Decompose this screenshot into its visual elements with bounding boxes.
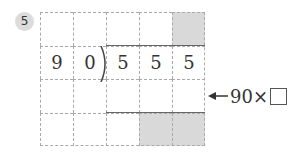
- grid-cell[interactable]: [106, 79, 139, 113]
- dividend-digit: 5: [106, 46, 139, 80]
- grid-cell[interactable]: [106, 12, 139, 46]
- grid-cell[interactable]: [40, 12, 73, 46]
- dividend-digit: 5: [172, 46, 205, 80]
- division-bracket-icon: [100, 46, 108, 82]
- hint-prefix: 90×: [230, 86, 268, 107]
- dividend-digit: 5: [139, 46, 172, 80]
- multiplication-hint: 90×: [208, 86, 287, 106]
- grid-bottom-edge: [40, 145, 205, 146]
- grid-cell-shaded: [172, 113, 205, 147]
- grid-cell[interactable]: [106, 113, 139, 147]
- grid-cell-shaded: [172, 12, 205, 46]
- grid-cell[interactable]: [40, 79, 73, 113]
- grid-cell[interactable]: [73, 12, 106, 46]
- problem-number-badge: 5: [15, 12, 34, 31]
- grid-cell[interactable]: [73, 113, 106, 147]
- arrow-left-icon: [208, 90, 228, 102]
- grid-cell[interactable]: [139, 12, 172, 46]
- grid-cell[interactable]: [172, 79, 205, 113]
- subtraction-line: [106, 112, 205, 113]
- grid-cell[interactable]: [40, 113, 73, 147]
- answer-box[interactable]: [270, 88, 287, 105]
- grid-cell-shaded: [139, 113, 172, 147]
- divisor-digit: 9: [40, 46, 73, 80]
- division-bar: [106, 45, 205, 46]
- grid-cell[interactable]: [73, 79, 106, 113]
- grid-right-edge: [204, 12, 205, 146]
- division-grid: 9 0 5 5 5: [40, 12, 205, 146]
- grid-cell[interactable]: [139, 79, 172, 113]
